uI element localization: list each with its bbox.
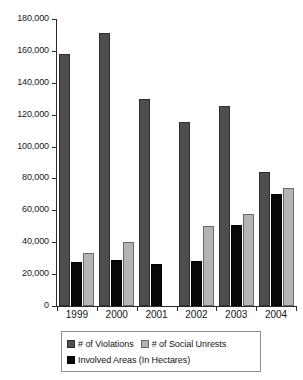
y-axis-tick-label: 140,000	[17, 78, 49, 87]
y-axis-tick-label: 40,000	[22, 237, 49, 246]
legend-swatch-social-unrests-icon	[141, 340, 149, 348]
x-axis-tick-label: 2004	[256, 309, 296, 321]
x-axis-tick-mark	[137, 306, 138, 311]
y-axis-tick-mark	[52, 242, 57, 243]
y-axis-tick-mark	[52, 83, 57, 84]
x-axis-tick-label: 2000	[97, 309, 137, 321]
y-axis-tick-label: 20,000	[22, 269, 49, 278]
bar-group	[256, 19, 296, 306]
bar-violations	[99, 33, 110, 306]
y-axis-tick-mark	[52, 147, 57, 148]
bar-unrests	[283, 188, 294, 306]
y-axis-tick-label: 60,000	[22, 205, 49, 214]
y-axis-tick-mark	[52, 274, 57, 275]
bar-group	[57, 19, 97, 306]
bar-violations	[59, 54, 70, 306]
y-axis-tick-label: 120,000	[17, 110, 49, 119]
bar-violations	[259, 172, 270, 306]
chart-legend: # of Violations # of Social Unrests Invo…	[61, 331, 261, 372]
y-axis-tick-label: 180,000	[17, 14, 49, 23]
bar-violations	[179, 122, 190, 306]
legend-row-bottom: Involved Areas (In Hectares)	[67, 352, 255, 367]
bar-unrests	[83, 253, 94, 306]
x-axis-tick-labels: 199920002001200220032004	[57, 309, 296, 323]
x-axis-tick-label: 2002	[177, 309, 217, 321]
bar-unrests	[243, 214, 254, 306]
y-axis-tick-mark	[52, 210, 57, 211]
legend-label-violations: # of Violations	[78, 339, 134, 349]
bars-layer	[57, 19, 296, 306]
bar-areas	[111, 260, 122, 306]
bar-areas	[151, 264, 162, 306]
bar-areas	[71, 262, 82, 306]
legend-label-social-unrests: # of Social Unrests	[152, 339, 227, 349]
x-axis-tick-mark	[256, 306, 257, 311]
legend-swatch-violations-icon	[67, 340, 75, 348]
bar-group	[177, 19, 217, 306]
y-axis-tick-label: 160,000	[17, 46, 49, 55]
y-axis-tick-mark	[52, 51, 57, 52]
y-axis-tick-label: 100,000	[17, 142, 49, 151]
bar-chart: 180,000160,000140,000120,000100,00080,00…	[0, 0, 303, 380]
x-axis-tick-label: 2003	[216, 309, 256, 321]
legend-entry-social-unrests: # of Social Unrests	[141, 339, 227, 349]
plot-area: 180,000160,000140,000120,000100,00080,00…	[0, 0, 303, 322]
bar-areas	[191, 261, 202, 306]
y-axis-tick-label: 80,000	[22, 173, 49, 182]
legend-entry-violations: # of Violations	[67, 339, 134, 349]
bar-group	[216, 19, 256, 306]
x-axis-tick-label: 1999	[57, 309, 97, 321]
x-axis-tick-mark	[296, 306, 297, 311]
legend-entry-involved-areas: Involved Areas (In Hectares)	[67, 355, 190, 365]
legend-row-top: # of Violations # of Social Unrests	[67, 336, 255, 351]
bar-violations	[139, 99, 150, 306]
bar-group	[97, 19, 137, 306]
bar-group	[137, 19, 177, 306]
x-axis-tick-mark	[97, 306, 98, 311]
bar-unrests	[123, 242, 134, 306]
bar-violations	[219, 106, 230, 306]
legend-label-involved-areas: Involved Areas (In Hectares)	[78, 355, 190, 365]
x-axis-tick-mark	[57, 306, 58, 311]
bar-areas	[231, 225, 242, 306]
x-axis-tick-mark	[177, 306, 178, 311]
bar-unrests	[203, 226, 214, 306]
y-axis-tick-mark	[52, 178, 57, 179]
x-axis-tick-mark	[216, 306, 217, 311]
y-axis-tick-labels: 180,000160,000140,000120,000100,00080,00…	[0, 0, 52, 322]
y-axis-tick-label: 0	[44, 301, 49, 310]
x-axis-tick-label: 2001	[137, 309, 177, 321]
y-axis-tick-mark	[52, 115, 57, 116]
legend-swatch-involved-areas-icon	[67, 356, 75, 364]
bar-areas	[271, 194, 282, 306]
y-axis-tick-mark	[52, 19, 57, 20]
